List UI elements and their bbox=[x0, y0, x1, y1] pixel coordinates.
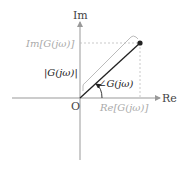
angle-label: ∠G(jω) bbox=[98, 78, 134, 89]
point-g-jw bbox=[137, 40, 142, 45]
imag-axis-label: Im bbox=[73, 9, 88, 22]
vector-g-jw bbox=[80, 43, 140, 98]
imag-part-label: Im[G(jω)] bbox=[25, 38, 74, 49]
origin-label: O bbox=[71, 100, 80, 113]
real-part-label: Re[G(jω)] bbox=[99, 102, 148, 113]
magnitude-label: |G(jω)| bbox=[44, 67, 78, 79]
real-axis-label: Re bbox=[162, 92, 177, 105]
complex-plane-diagram: Im Re O Im[G(jω)] Re[G(jω)] |G(jω)| ∠G(j… bbox=[0, 0, 181, 170]
